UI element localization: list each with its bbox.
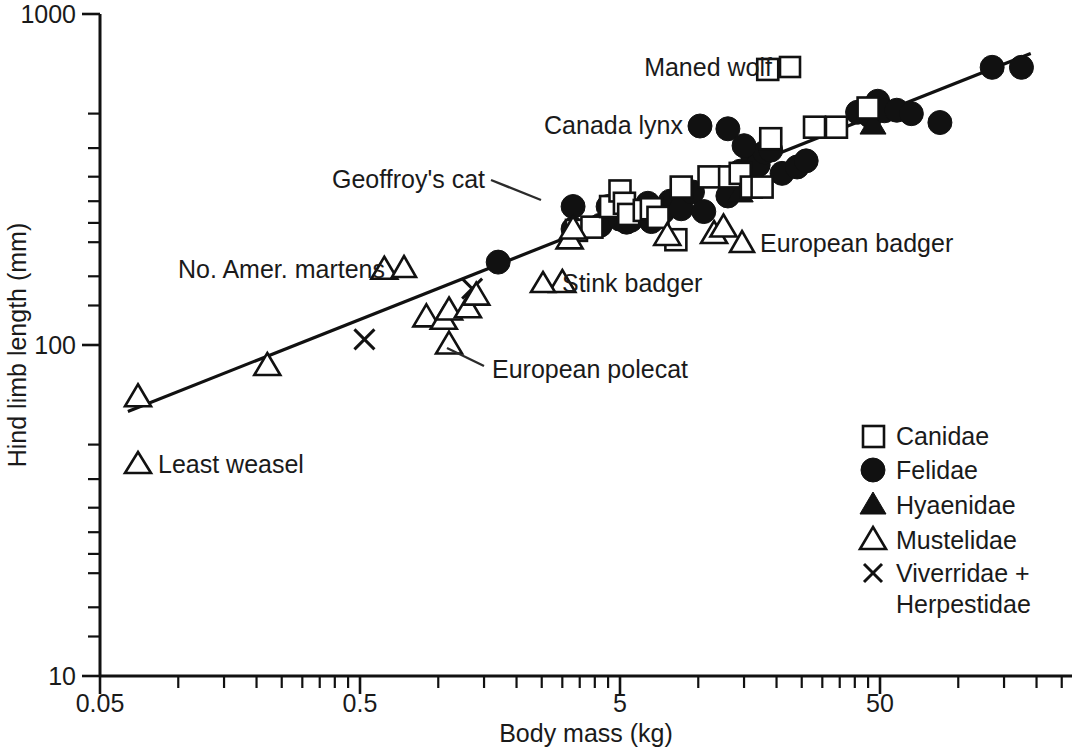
y-axis-title: Hind limb length (mm) xyxy=(3,223,31,468)
x-axis-title: Body mass (kg) xyxy=(499,719,673,747)
legend-item-viverridae: Viverridae + Herpestidae xyxy=(864,559,1031,618)
datapoint-cross-x xyxy=(354,329,374,349)
legend-item-canidae: Canidae xyxy=(863,422,989,450)
annotation-european-badger: European badger xyxy=(730,229,953,257)
legend-item-mustelidae: Mustelidae xyxy=(860,526,1017,554)
legend-label-viverridae: Viverridae + xyxy=(896,559,1030,587)
legend: Canidae Felidae Hyaenidae Mustelidae Viv… xyxy=(860,422,1031,618)
x-ticklabel-50: 50 xyxy=(866,689,894,717)
datapoint-filled-circle xyxy=(899,102,923,126)
least-weasel-marker-open-triangle xyxy=(125,452,151,473)
legend-label-herpestidae: Herpestidae xyxy=(896,590,1031,618)
annotation-european-polecat: European polecat xyxy=(492,355,688,383)
european-polecat-label: European polecat xyxy=(492,355,688,383)
least-weasel-label: Least weasel xyxy=(158,450,304,478)
legend-marker-filled-circle xyxy=(861,458,885,482)
plot-canvas: 1000 100 10 0.05 0.5 5 50 Body mass (kg)… xyxy=(0,0,1078,750)
legend-label-canidae: Canidae xyxy=(896,422,989,450)
no-amer-martens-label: No. Amer. martens xyxy=(178,255,385,283)
annotation-geoffroys-cat: Geoffroy's cat xyxy=(332,165,485,193)
x-axis-ticks xyxy=(100,676,1062,694)
x-ticklabel-05: 0.5 xyxy=(343,689,378,717)
datapoint-filled-circle xyxy=(732,134,756,158)
datapoint-open-square xyxy=(752,177,773,198)
datapoint-open-square xyxy=(826,117,847,138)
y-ticklabel-10: 10 xyxy=(48,662,76,690)
datapoint-filled-circle xyxy=(980,55,1004,79)
legend-marker-open-triangle xyxy=(860,527,886,549)
y-axis-minor-ticks xyxy=(88,114,100,637)
datapoint-filled-circle xyxy=(486,250,510,274)
geoffroys-cat-leader xyxy=(491,180,541,200)
y-ticklabel-1000: 1000 xyxy=(20,0,76,28)
european-badger-label: European badger xyxy=(760,229,953,257)
datapoint-filled-circle xyxy=(1009,55,1033,79)
annotation-canada-lynx: Canada lynx xyxy=(544,111,712,139)
maned-wolf-marker-open-square xyxy=(780,57,800,77)
x-ticklabel-5: 5 xyxy=(613,689,627,717)
legend-marker-cross-x xyxy=(864,564,882,582)
datapoint-open-triangle xyxy=(254,353,280,375)
y-ticklabel-100: 100 xyxy=(34,331,76,359)
legend-item-hyaenidae: Hyaenidae xyxy=(860,491,1016,519)
stink-badger-marker-open-triangle xyxy=(531,272,555,292)
maned-wolf-label: Maned wolf xyxy=(644,53,772,81)
legend-marker-filled-triangle xyxy=(860,492,886,514)
stink-badger-label: Stink badger xyxy=(562,269,702,297)
x-ticklabel-005: 0.05 xyxy=(76,689,125,717)
scatter-plot-figure: 1000 100 10 0.05 0.5 5 50 Body mass (kg)… xyxy=(0,0,1078,750)
datapoint-open-square xyxy=(671,177,692,198)
legend-label-hyaenidae: Hyaenidae xyxy=(896,491,1016,519)
legend-label-felidae: Felidae xyxy=(896,456,978,484)
annotation-least-weasel: Least weasel xyxy=(125,450,304,478)
datapoint-open-square xyxy=(804,117,825,138)
datapoint-filled-circle xyxy=(928,111,952,135)
datapoint-open-square xyxy=(858,98,879,119)
geoffroys-cat-label: Geoffroy's cat xyxy=(332,165,485,193)
canada-lynx-label: Canada lynx xyxy=(544,111,683,139)
datapoint-open-square xyxy=(760,128,781,149)
legend-marker-open-square xyxy=(863,426,884,447)
no-amer-martens-marker-open-triangle xyxy=(392,256,416,277)
datapoint-filled-circle xyxy=(794,149,818,173)
european-polecat-leader xyxy=(447,348,484,366)
datapoint-open-triangle xyxy=(125,384,151,406)
legend-label-mustelidae: Mustelidae xyxy=(896,526,1017,554)
canada-lynx-marker-filled-circle xyxy=(688,114,712,138)
datapoint-open-square xyxy=(699,166,720,187)
datapoint-filled-circle xyxy=(692,200,716,224)
annotation-no-amer-martens: No. Amer. martens xyxy=(178,255,416,283)
legend-item-felidae: Felidae xyxy=(861,456,978,484)
